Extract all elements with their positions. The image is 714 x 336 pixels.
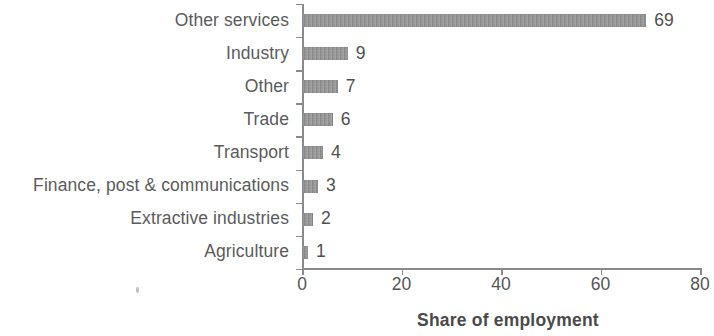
- bar-value-label: 4: [331, 144, 341, 162]
- y-axis-tick: [296, 136, 303, 137]
- scan-artifact: [136, 287, 139, 293]
- y-axis-tick: [296, 203, 303, 204]
- x-axis-tick-label: 0: [297, 276, 307, 294]
- bar: [303, 213, 313, 226]
- x-axis-tick-label: 80: [690, 276, 709, 294]
- bar: [303, 146, 323, 159]
- category-label: Extractive industries: [0, 210, 289, 228]
- y-axis-tick: [296, 37, 303, 38]
- category-label: Transport: [0, 144, 289, 162]
- y-axis-tick: [296, 103, 303, 104]
- bar-chart: Other servicesIndustryOtherTradeTranspor…: [0, 0, 714, 336]
- category-label: Other: [0, 78, 289, 96]
- category-label: Other services: [0, 12, 289, 30]
- x-axis-tick-label: 60: [591, 276, 610, 294]
- y-axis-tick: [296, 236, 303, 237]
- category-label: Agriculture: [0, 243, 289, 261]
- bar: [303, 113, 333, 126]
- bar: [303, 180, 318, 193]
- y-axis-tick: [296, 170, 303, 171]
- plot-area: 699764321 020406080 Share of employment: [302, 0, 714, 336]
- category-label: Trade: [0, 111, 289, 129]
- category-label: Finance, post & communications: [0, 177, 289, 195]
- bar-value-label: 1: [316, 243, 326, 261]
- bar: [303, 14, 646, 27]
- x-axis-tick-label: 20: [392, 276, 411, 294]
- bar-value-label: 9: [356, 45, 366, 63]
- y-axis-tick: [296, 4, 303, 5]
- x-axis-title: Share of employment: [302, 312, 714, 330]
- bar-value-label: 2: [321, 210, 331, 228]
- bar-value-label: 3: [326, 177, 336, 195]
- bar: [303, 80, 338, 93]
- bar-value-label: 69: [654, 12, 673, 30]
- bar-value-label: 6: [341, 111, 351, 129]
- y-axis-tick: [296, 70, 303, 71]
- category-label: Industry: [0, 45, 289, 63]
- bar: [303, 47, 348, 60]
- bar-value-label: 7: [346, 78, 356, 96]
- bar: [303, 246, 308, 259]
- x-axis-tick-label: 40: [491, 276, 510, 294]
